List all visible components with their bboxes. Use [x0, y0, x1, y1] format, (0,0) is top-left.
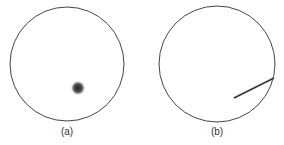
diagram-canvas	[0, 0, 284, 145]
line-b	[234, 78, 274, 98]
circle-a	[10, 7, 124, 121]
circle-b	[159, 6, 275, 122]
caption-b: (b)	[197, 126, 237, 137]
caption-a: (a)	[47, 126, 87, 137]
dot-a	[70, 80, 86, 96]
